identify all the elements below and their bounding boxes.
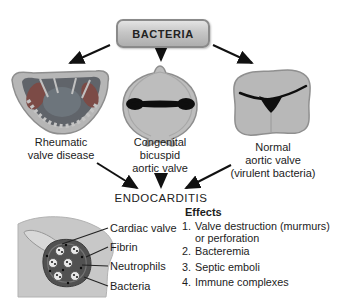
effects-item-4: 4. Immune complexes xyxy=(182,277,337,289)
item-text: Immune complexes xyxy=(195,277,289,289)
label-normal-aortic-valve: Normal aortic valve (virulent bacteria) xyxy=(213,141,333,180)
label-congenital-bicuspid: Congenital bicuspid aortic valve xyxy=(112,136,208,175)
effects-heading: Effects xyxy=(185,206,337,218)
item-text: Valve destruction (murmurs) or perforati… xyxy=(195,221,330,244)
item-text: Bacteremia xyxy=(195,246,250,258)
label-line: valve disease xyxy=(2,149,120,162)
item-line: Valve destruction (murmurs) xyxy=(195,221,330,233)
effects-item-3: 3. Septic emboli xyxy=(182,262,337,274)
endocarditis-diagram: BACTERIA Rheumatic valve disease Congeni… xyxy=(0,0,338,299)
vegetation-illustration xyxy=(18,217,113,297)
label-line: bicuspid xyxy=(112,149,208,162)
label-rheumatic-valve-disease: Rheumatic valve disease xyxy=(2,136,120,162)
item-number: 1. xyxy=(182,221,195,244)
item-number: 4. xyxy=(182,277,195,289)
label-line: Rheumatic xyxy=(2,136,120,149)
item-line: Bacteremia xyxy=(195,246,250,258)
item-text: Septic emboli xyxy=(195,262,260,274)
label-line: aortic valve xyxy=(213,154,333,167)
arrow-to-rheumatic xyxy=(70,45,110,63)
label-bacteria: Bacteria xyxy=(110,280,150,292)
label-line: Congenital xyxy=(112,136,208,149)
item-line: Septic emboli xyxy=(195,262,260,274)
label-line: Normal xyxy=(213,141,333,154)
bicuspid-valve-illustration xyxy=(123,66,197,146)
item-line: or perforation xyxy=(195,233,330,245)
item-number: 2. xyxy=(182,246,195,258)
label-line: aortic valve xyxy=(112,162,208,175)
label-cardiac-valve: Cardiac valve xyxy=(110,222,177,234)
label-fibrin: Fibrin xyxy=(110,241,138,253)
label-line: (virulent bacteria) xyxy=(213,167,333,180)
item-number: 3. xyxy=(182,262,195,274)
normal-valve-illustration xyxy=(234,70,310,135)
effects-item-2: 2. Bacteremia xyxy=(182,246,337,258)
endocarditis-label: ENDOCARDITIS xyxy=(100,192,222,204)
rheumatic-valve-illustration xyxy=(12,71,109,134)
arrow-to-normal xyxy=(213,45,252,63)
item-line: Immune complexes xyxy=(195,277,289,289)
effects-panel: Effects 1. Valve destruction (murmurs) o… xyxy=(182,206,337,291)
bacteria-box: BACTERIA xyxy=(116,19,210,48)
effects-item-1: 1. Valve destruction (murmurs) or perfor… xyxy=(182,221,337,244)
label-neutrophils: Neutrophils xyxy=(110,260,166,272)
